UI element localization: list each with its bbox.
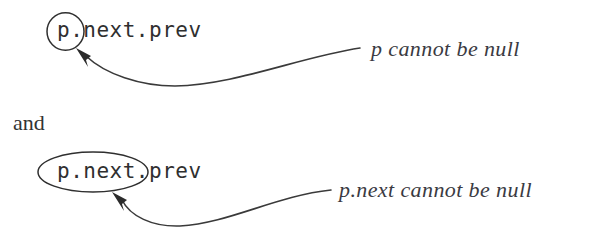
curved-arrow-icon-second [122, 190, 331, 226]
annotation-first: p cannot be null [371, 36, 520, 62]
arrowhead-second [112, 192, 127, 211]
annotation-second: p.next cannot be null [339, 177, 532, 203]
conjunction-label: and [13, 110, 45, 136]
code-expression-first: p.next.prev [57, 18, 202, 42]
code-expression-second: p.next.prev [57, 159, 202, 183]
curved-arrow-icon-first [86, 48, 360, 86]
arrowhead-first [76, 48, 91, 67]
figure-canvas: p.next.prev and p cannot be null p.next.… [0, 0, 589, 237]
